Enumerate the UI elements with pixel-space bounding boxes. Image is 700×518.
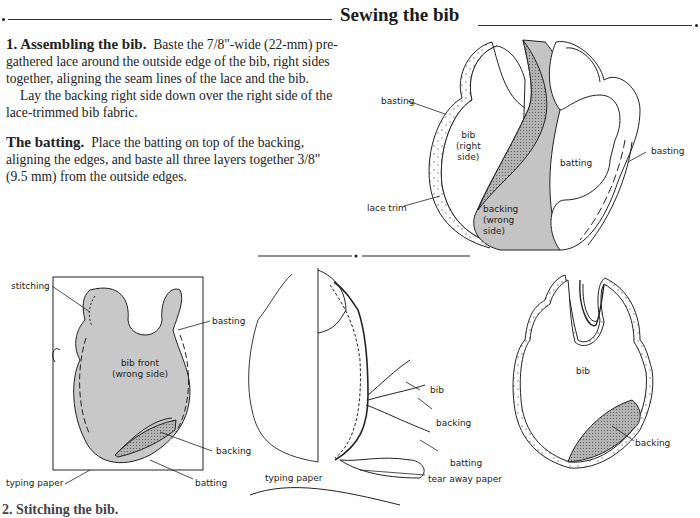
label-fig1-batting: batting — [560, 158, 592, 169]
label-fig3-tear-away-paper: tear away paper — [428, 474, 502, 485]
label-fig1-basting-left: basting — [381, 96, 414, 107]
label-fig1-basting-right: basting — [651, 146, 684, 157]
label-fig1-lace-trim: lace trim — [367, 203, 407, 214]
label-fig3-bib: bib — [430, 385, 444, 396]
label-fig2-typing-paper: typing paper — [6, 478, 64, 489]
next-section-heading: 2. Stitching the bib. — [2, 502, 118, 518]
label-fig1-bib-right-side: bib (right side) — [456, 130, 481, 163]
label-fig3-backing: backing — [436, 418, 471, 429]
label-fig2-stitching: stitching — [11, 281, 50, 292]
label-fig4-backing: backing — [635, 438, 670, 449]
label-fig4-bib: bib — [576, 366, 590, 377]
label-fig2-basting: basting — [212, 316, 245, 327]
figure-tear-away-paper — [249, 268, 430, 505]
label-fig1-backing-wrong-side: backing (wrong side) — [483, 204, 518, 237]
label-fig3-typing-paper: typing paper — [265, 473, 323, 484]
label-fig2-backing: backing — [216, 446, 251, 457]
label-fig2-bib-front-wrong-side: bib front (wrong side) — [105, 358, 175, 380]
label-fig2-batting: batting — [195, 478, 227, 489]
label-fig3-batting: batting — [450, 458, 482, 469]
